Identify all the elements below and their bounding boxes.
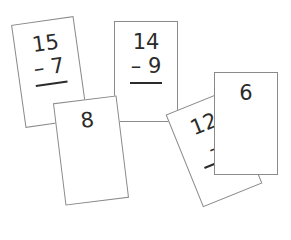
card-answer-number: 8	[55, 107, 119, 135]
card-subtrahend: 9	[148, 54, 161, 78]
flash-card-answer-8: 8	[53, 95, 129, 205]
card-bottom-number: – 9	[115, 56, 177, 77]
minus-sign: –	[131, 54, 142, 78]
card-top-number: 14	[115, 32, 177, 53]
minus-sign: –	[32, 56, 46, 81]
flash-card-answer-6: 6	[214, 72, 278, 175]
flash-card-14-minus-9: 14 – 9	[114, 21, 178, 122]
answer-line	[130, 82, 162, 84]
card-answer-number: 6	[215, 83, 277, 104]
card-bottom-number: – 7	[17, 53, 80, 82]
answer-line	[36, 81, 68, 87]
card-subtrahend: 7	[49, 53, 66, 79]
